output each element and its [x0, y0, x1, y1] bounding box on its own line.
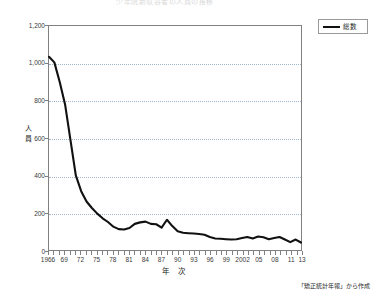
x-tick-mark [286, 251, 287, 255]
x-tick-mark [226, 251, 227, 255]
series-layer [49, 26, 301, 250]
x-tick-label: 05 [255, 256, 262, 264]
x-tick-mark [53, 251, 54, 255]
x-tick-label: 84 [142, 256, 149, 264]
x-tick-mark [107, 251, 108, 255]
x-tick-mark [183, 251, 184, 255]
x-tick-mark [156, 251, 157, 255]
x-tick-mark [102, 251, 103, 255]
x-tick-mark [97, 251, 98, 255]
x-tick-mark [280, 251, 281, 255]
x-tick-mark [221, 251, 222, 255]
x-tick-mark [86, 251, 87, 255]
x-tick-mark [232, 251, 233, 255]
x-tick-mark [178, 251, 179, 255]
x-tick-mark [302, 251, 303, 255]
x-tick-label: 78 [109, 256, 116, 264]
x-tick-mark [91, 251, 92, 255]
x-tick-label: 99 [223, 256, 230, 264]
x-tick-mark [124, 251, 125, 255]
x-tick-mark [264, 251, 265, 255]
x-tick-mark [194, 251, 195, 255]
x-tick-mark [205, 251, 206, 255]
x-tick-label: 96 [207, 256, 214, 264]
x-tick-mark [140, 251, 141, 255]
legend-swatch-total [323, 26, 340, 28]
x-tick-mark [64, 251, 65, 255]
x-tick-label: 87 [158, 256, 165, 264]
x-tick-label: 93 [190, 256, 197, 264]
x-tick-mark [253, 251, 254, 255]
x-tick-label: 72 [77, 256, 84, 264]
x-tick-mark [248, 251, 249, 255]
x-tick-mark [75, 251, 76, 255]
x-tick-mark [118, 251, 119, 255]
y-tick-label: 600 [3, 135, 45, 142]
x-tick-mark [275, 251, 276, 255]
series-line-total [49, 57, 301, 243]
x-tick-label: 75 [93, 256, 100, 264]
x-tick-mark [80, 251, 81, 255]
x-tick-mark [129, 251, 130, 255]
x-tick-mark [270, 251, 271, 255]
y-tick-label: 0 [3, 248, 45, 255]
x-tick-mark [210, 251, 211, 255]
legend: 総数 [318, 19, 368, 34]
x-tick-mark [297, 251, 298, 255]
x-tick-mark [134, 251, 135, 255]
x-tick-mark [243, 251, 244, 255]
x-tick-label: 81 [125, 256, 132, 264]
x-tick-mark [167, 251, 168, 255]
x-tick-mark [291, 251, 292, 255]
y-tick-label: 1,000 [3, 59, 45, 66]
x-tick-label: 11 [288, 256, 295, 264]
x-tick-mark [70, 251, 71, 255]
y-tick-label: 400 [3, 172, 45, 179]
x-tick-label: 90 [174, 256, 181, 264]
plot-area [48, 25, 302, 251]
x-tick-mark [216, 251, 217, 255]
x-axis-title: 年 次 [48, 265, 302, 276]
x-tick-mark [172, 251, 173, 255]
x-tick-mark [237, 251, 238, 255]
x-tick-label: 2002 [235, 256, 249, 264]
x-tick-mark [59, 251, 60, 255]
legend-label-total: 総数 [343, 23, 357, 31]
x-tick-mark [113, 251, 114, 255]
x-tick-mark [259, 251, 260, 255]
y-axis: 02004006008001,0001,200 [0, 25, 45, 251]
chart-title: 少年院新収容者の人員の推移 [0, 0, 330, 6]
x-tick-mark [189, 251, 190, 255]
x-tick-label: 13 [298, 256, 305, 264]
x-tick-label: 08 [271, 256, 278, 264]
x-tick-mark [199, 251, 200, 255]
y-tick-label: 200 [3, 210, 45, 217]
x-tick-label: 69 [61, 256, 68, 264]
source-note: 「矯正統計年報」から作成 [298, 282, 370, 290]
x-tick-mark [48, 251, 49, 255]
chart-container: 少年院新収容者の人員の推移 人員 02004006008001,0001,200… [0, 0, 378, 296]
y-tick-label: 800 [3, 97, 45, 104]
x-tick-mark [145, 251, 146, 255]
x-tick-mark [151, 251, 152, 255]
y-tick-label: 1,200 [3, 22, 45, 29]
x-tick-mark [161, 251, 162, 255]
x-tick-label: 1966 [41, 256, 55, 264]
